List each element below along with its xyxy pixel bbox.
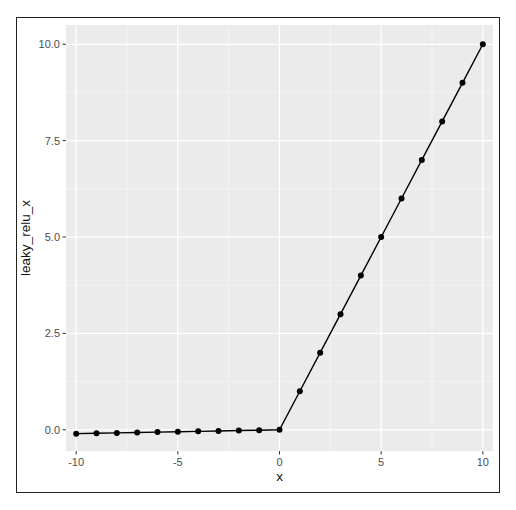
data-point bbox=[94, 430, 100, 436]
data-point bbox=[277, 427, 283, 433]
data-point bbox=[480, 41, 486, 47]
x-tick-label: -10 bbox=[68, 456, 84, 468]
y-tick-label: 0.0 bbox=[45, 424, 60, 436]
y-tick-label: 2.5 bbox=[45, 327, 60, 339]
data-point bbox=[114, 430, 120, 436]
data-point bbox=[460, 80, 466, 86]
data-point bbox=[358, 273, 364, 279]
data-point bbox=[236, 428, 242, 434]
x-tick-label: 10 bbox=[477, 456, 489, 468]
x-tick-label: 5 bbox=[378, 456, 384, 468]
data-point bbox=[338, 311, 344, 317]
data-point bbox=[73, 431, 79, 437]
x-axis: -10-50510 bbox=[68, 451, 489, 468]
y-axis: 0.02.55.07.510.0 bbox=[39, 38, 66, 436]
x-tick-label: -5 bbox=[173, 456, 183, 468]
x-axis-title: x bbox=[276, 469, 283, 484]
x-tick-label: 0 bbox=[276, 456, 282, 468]
data-point bbox=[175, 429, 181, 435]
data-point bbox=[399, 195, 405, 201]
data-point bbox=[195, 428, 201, 434]
y-tick-label: 7.5 bbox=[45, 135, 60, 147]
data-point bbox=[317, 350, 323, 356]
chart-svg: -10-50510 0.02.55.07.510.0 x leaky_relu_… bbox=[0, 0, 516, 510]
y-axis-title: leaky_relu_x bbox=[18, 200, 33, 276]
y-tick-label: 10.0 bbox=[39, 38, 60, 50]
data-point bbox=[155, 429, 161, 435]
data-point bbox=[419, 157, 425, 163]
data-point bbox=[297, 388, 303, 394]
data-point bbox=[256, 427, 262, 433]
data-point bbox=[439, 118, 445, 124]
data-point bbox=[378, 234, 384, 240]
y-tick-label: 5.0 bbox=[45, 231, 60, 243]
data-point bbox=[134, 429, 140, 435]
data-point bbox=[216, 428, 222, 434]
